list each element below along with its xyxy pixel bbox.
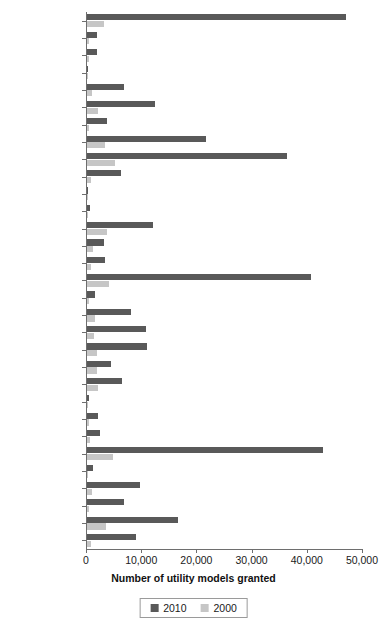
chart-row: Chongqing (86, 497, 362, 514)
y-axis-tick (82, 107, 86, 108)
chart-row: Jiangsu (86, 272, 362, 289)
y-axis-tick (82, 125, 86, 126)
chart-row: Sichuan (86, 99, 362, 116)
y-axis-tick (82, 523, 86, 524)
chart-row: Anhui (86, 532, 362, 549)
x-axis-tick-label: 0 (83, 554, 89, 566)
x-axis-tick (86, 549, 87, 553)
chart-row: Guangxi (86, 428, 362, 445)
chart-row: Guangdong (86, 445, 362, 462)
legend-swatch-icon (201, 604, 209, 612)
chart-row: Shanghai (86, 133, 362, 150)
chart-row: Tianjin (86, 81, 362, 98)
y-axis-tick (82, 159, 86, 160)
x-axis-tick-label: 20,000 (180, 554, 212, 566)
chart-row: Hubei (86, 324, 362, 341)
y-axis-tick (82, 471, 86, 472)
chart-row: Henan (86, 341, 362, 358)
x-axis-tick (196, 549, 197, 553)
y-axis-tick (82, 229, 86, 230)
x-axis-tick (252, 549, 253, 553)
y-axis-tick (82, 246, 86, 247)
bar-chart: ZhejiangYunnanXinjiangTibetTianjinSichua… (0, 0, 387, 632)
x-axis-tick (307, 549, 308, 553)
chart-legend: 2010 2000 (139, 598, 248, 618)
x-axis-tick-label: 40,000 (291, 554, 323, 566)
legend-swatch-icon (150, 604, 158, 612)
chart-row: Beijing (86, 514, 362, 531)
chart-row: Jiangxi (86, 255, 362, 272)
chart-row: Shaanxi (86, 168, 362, 185)
y-axis-tick (82, 263, 86, 264)
x-axis-tick-label: 50,000 (346, 554, 378, 566)
x-axis-line (86, 549, 363, 550)
chart-row: Xinjiang (86, 47, 362, 64)
chart-row: Fujian (86, 480, 362, 497)
chart-row: Guizhou (86, 410, 362, 427)
y-axis-tick (82, 211, 86, 212)
chart-row: Hainan (86, 393, 362, 410)
y-axis-tick (82, 436, 86, 437)
y-axis-tick (82, 177, 86, 178)
y-axis-tick (82, 142, 86, 143)
chart-row: Tibet (86, 64, 362, 81)
chart-row: Qinghai (86, 185, 362, 202)
y-axis-tick (82, 315, 86, 316)
y-axis-tick (82, 540, 86, 541)
y-axis-tick (82, 488, 86, 489)
y-axis-tick (82, 332, 86, 333)
chart-row: Shandong (86, 151, 362, 168)
x-axis-tick (362, 549, 363, 553)
y-axis-tick (82, 298, 86, 299)
chart-row: Gansu (86, 462, 362, 479)
y-axis-tick (82, 38, 86, 39)
y-axis-tick (82, 402, 86, 403)
chart-row: Inner Mongolia (86, 289, 362, 306)
chart-row: Jilin (86, 237, 362, 254)
chart-row: Yunnan (86, 29, 362, 46)
x-axis-tick-label: 30,000 (236, 554, 268, 566)
y-axis-tick (82, 419, 86, 420)
y-axis-tick (82, 454, 86, 455)
chart-row: Hunan (86, 306, 362, 323)
y-axis-tick (82, 280, 86, 281)
x-axis-tick (141, 549, 142, 553)
legend-item-2010: 2010 (150, 602, 186, 614)
legend-item-2000: 2000 (201, 602, 237, 614)
y-axis-tick (82, 194, 86, 195)
x-axis-title: Number of utility models granted (0, 572, 387, 584)
legend-label: 2000 (214, 602, 237, 614)
y-axis-tick (82, 384, 86, 385)
plot-area: ZhejiangYunnanXinjiangTibetTianjinSichua… (86, 12, 362, 549)
chart-row: Ningxia (86, 203, 362, 220)
y-axis-tick (82, 367, 86, 368)
y-axis-tick (82, 21, 86, 22)
y-axis-tick (82, 506, 86, 507)
y-axis-tick (82, 350, 86, 351)
x-axis-tick-label: 10,000 (125, 554, 157, 566)
y-axis-tick (82, 55, 86, 56)
y-axis-tick (82, 73, 86, 74)
chart-row: Liaoning (86, 220, 362, 237)
y-axis-tick (82, 90, 86, 91)
chart-row: Zhejiang (86, 12, 362, 29)
chart-row: Heilongjiang (86, 358, 362, 375)
legend-label: 2010 (163, 602, 186, 614)
chart-row: Shanxi (86, 116, 362, 133)
chart-row: Hebei (86, 376, 362, 393)
